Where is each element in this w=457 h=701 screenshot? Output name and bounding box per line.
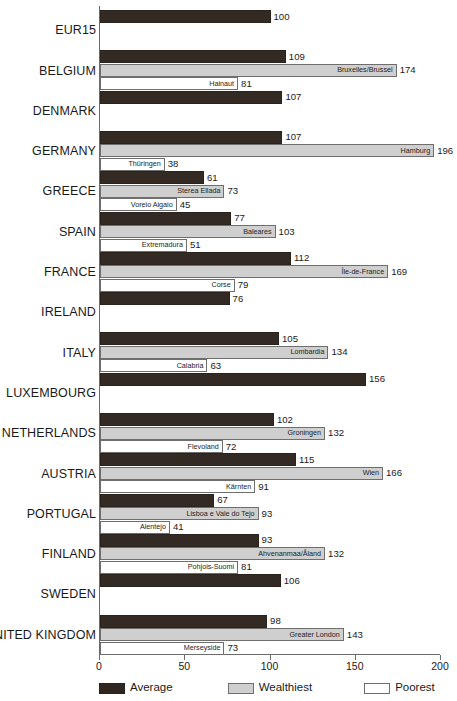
- bar-value-label: 63: [210, 361, 221, 371]
- legend-item-wealthiest: Wealthiest: [228, 682, 312, 694]
- bar-value-label: 45: [180, 200, 191, 210]
- bar-row: 77: [100, 212, 440, 225]
- region-label: Kärnten: [226, 483, 251, 490]
- region-label: Hamburg: [401, 147, 431, 154]
- bar-row: Lisboa e Vale do Tejo93: [100, 507, 440, 520]
- bar-group: SWEDEN106: [100, 574, 440, 588]
- bar-row: 67: [100, 494, 440, 507]
- bar-row: 61: [100, 171, 440, 184]
- bar-value-label: 112: [294, 254, 309, 264]
- bar-value-label: 67: [217, 495, 228, 505]
- bar-wealthiest: Bruxelles/Brussel174: [100, 64, 397, 77]
- bar-group: EUR15100: [100, 10, 440, 24]
- bar-row: 100: [100, 10, 440, 23]
- legend-label: Poorest: [395, 682, 435, 694]
- bar-group: PORTUGAL67Lisboa e Vale do Tejo93Alentej…: [100, 494, 440, 535]
- bar-row: Merseyside73: [100, 642, 440, 655]
- country-label: DENMARK: [33, 105, 96, 118]
- bar-row: Bruxelles/Brussel174: [100, 64, 440, 77]
- bar-value-label: 132: [328, 428, 344, 438]
- bar-group: AUSTRIA115Wien166Kärnten91: [100, 453, 440, 494]
- region-label: Corse: [212, 282, 231, 289]
- bar-row: 76: [100, 292, 440, 305]
- bar-row: 105: [100, 332, 440, 345]
- region-label: Extremadura: [142, 241, 183, 248]
- country-label: EUR15: [55, 24, 96, 37]
- bar-value-label: 174: [400, 66, 416, 76]
- bar-value-label: 73: [227, 186, 238, 196]
- bar-wealthiest: Lombardia134: [100, 346, 328, 359]
- bar-value-label: 41: [173, 522, 184, 532]
- bar-row: 107: [100, 91, 440, 104]
- bar-poorest: Thüringen38: [100, 158, 165, 171]
- bar-value-label: 106: [284, 576, 300, 586]
- bar-group: GERMANY107Hamburg196Thüringen38: [100, 131, 440, 172]
- bar-value-label: 61: [207, 173, 218, 183]
- bar-row: Ahvenanmaa/Åland132: [100, 547, 440, 560]
- bar-value-label: 100: [274, 12, 290, 22]
- bar-row: Greater London143: [100, 628, 440, 641]
- bar-group: GREECE61Sterea Ellada73Voreio Aigaio45: [100, 171, 440, 212]
- bar-row: 102: [100, 413, 440, 426]
- bar-value-label: 166: [386, 469, 402, 479]
- bar-value-label: 105: [282, 334, 298, 344]
- bar-value-label: 38: [168, 160, 179, 170]
- bar-value-label: 79: [238, 281, 249, 291]
- bar-row: Baleares103: [100, 225, 440, 238]
- region-label: Flevoland: [188, 443, 219, 450]
- bar-poorest: Extremadura51: [100, 239, 187, 252]
- bar-average: 115: [100, 453, 296, 466]
- x-axis: 050100150200: [99, 655, 440, 677]
- x-axis-tick-label: 50: [178, 661, 190, 672]
- bar-row: 156: [100, 373, 440, 386]
- region-label: Alentejo: [140, 523, 166, 530]
- legend-label: Wealthiest: [259, 682, 312, 694]
- bar-average: 102: [100, 413, 274, 426]
- bar-group: FINLAND93Ahvenanmaa/Åland132Pohjois-Suom…: [100, 534, 440, 575]
- bar-row: 115: [100, 453, 440, 466]
- bar-group: FRANCE112Île-de-France169Corse79: [100, 252, 440, 293]
- bar-value-label: 93: [262, 509, 273, 519]
- legend-swatch-wealthiest: [228, 683, 254, 694]
- bar-value-label: 77: [234, 213, 245, 223]
- x-axis-tick-label: 150: [346, 661, 364, 672]
- bar-row: Calabria63: [100, 359, 440, 372]
- region-label: Baleares: [243, 228, 271, 235]
- region-label: Ahvenanmaa/Åland: [258, 550, 321, 557]
- bar-row: 109: [100, 50, 440, 63]
- bar-average: 93: [100, 534, 259, 547]
- region-label: Groningen: [287, 429, 321, 436]
- bar-poorest: Hainaut81: [100, 77, 238, 90]
- legend-item-poorest: Poorest: [364, 682, 435, 694]
- bar-wealthiest: Hamburg196: [100, 144, 434, 157]
- bar-wealthiest: Greater London143: [100, 628, 344, 641]
- bar-value-label: 103: [279, 227, 295, 237]
- bar-poorest: Calabria63: [100, 359, 207, 372]
- bar-value-label: 143: [347, 630, 363, 640]
- bar-row: Alentejo41: [100, 521, 440, 534]
- bar-wealthiest: Wien166: [100, 467, 383, 480]
- bar-row: 112: [100, 252, 440, 265]
- region-label: Île-de-France: [341, 268, 384, 275]
- region-label: Wien: [363, 470, 379, 477]
- bar-row: Sterea Ellada73: [100, 185, 440, 198]
- region-label: Sterea Ellada: [177, 188, 220, 195]
- bar-average: 156: [100, 373, 366, 386]
- bar-value-label: 134: [331, 348, 347, 358]
- bar-row: Lombardia134: [100, 346, 440, 359]
- bar-wealthiest: Groningen132: [100, 427, 325, 440]
- country-label: PORTUGAL: [27, 508, 96, 521]
- bar-group: ITALY105Lombardia134Calabria63: [100, 332, 440, 373]
- bar-group: SPAIN77Baleares103Extremadura51: [100, 212, 440, 253]
- country-label: SPAIN: [59, 226, 96, 239]
- bar-poorest: Flevoland72: [100, 440, 223, 453]
- region-label: Bruxelles/Brussel: [337, 67, 393, 74]
- bar-poorest: Voreio Aigaio45: [100, 198, 177, 211]
- country-label: FRANCE: [44, 266, 96, 279]
- bar-wealthiest: Île-de-France169: [100, 265, 388, 278]
- bar-group: UNITED KINGDOM98Greater London143Merseys…: [100, 615, 440, 656]
- region-label: Merseyside: [184, 644, 221, 651]
- bar-average: 106: [100, 574, 281, 587]
- country-label: BELGIUM: [39, 64, 96, 77]
- bar-row: Groningen132: [100, 427, 440, 440]
